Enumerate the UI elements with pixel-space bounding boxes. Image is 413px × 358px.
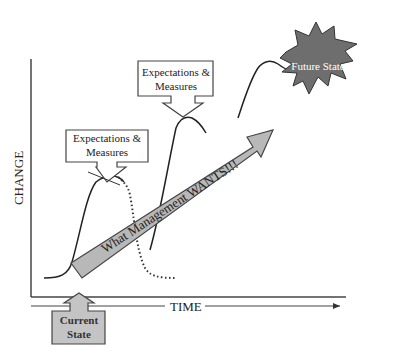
time-arrowhead-icon xyxy=(333,303,340,309)
y-axis-label: CHANGE xyxy=(11,151,26,205)
current-state-line1: Current xyxy=(60,314,99,326)
current-state-line2: State xyxy=(67,328,91,340)
change-diagram: CHANGE TIME Current State What Managemen… xyxy=(0,0,413,358)
callout-expectations-1: Expectations & Measures xyxy=(66,130,148,185)
x-axis-label: TIME xyxy=(170,299,202,314)
future-state-label: Future State xyxy=(291,60,345,72)
callout-1-line2: Measures xyxy=(86,146,128,158)
future-state-starburst: Future State xyxy=(280,22,357,94)
callout-2-line2: Measures xyxy=(155,80,197,92)
third-s-curve xyxy=(238,61,290,118)
callout-2-line1: Expectations & xyxy=(142,66,211,78)
callout-expectations-2: Expectations & Measures xyxy=(138,61,213,117)
callout-1-line1: Expectations & xyxy=(73,132,142,144)
